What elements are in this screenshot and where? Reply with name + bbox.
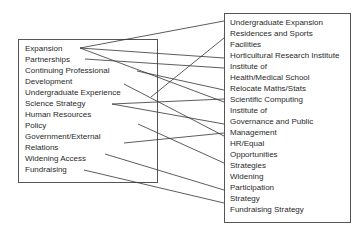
right-item: Undergraduate Expansion xyxy=(230,17,339,28)
left-item: Widening Access xyxy=(25,153,121,164)
right-item: Health/Medical School xyxy=(230,72,339,83)
right-item: Management xyxy=(230,127,339,138)
right-item: Participation xyxy=(230,182,339,193)
right-item: Opportunities xyxy=(230,149,339,160)
right-item: Facilities xyxy=(230,39,339,50)
left-item: Policy xyxy=(25,120,121,131)
left-item: Government/External xyxy=(25,131,121,142)
right-item: Institute of xyxy=(230,105,339,116)
right-item: Residences and Sports xyxy=(230,28,339,39)
right-item: Fundraising Strategy xyxy=(230,204,339,215)
right-item: Widening xyxy=(230,171,339,182)
right-item: HR/Equal xyxy=(230,138,339,149)
left-item: Expansion xyxy=(25,43,121,54)
connector-line xyxy=(105,154,224,190)
left-item: Partnerships xyxy=(25,54,121,65)
right-item: Strategies xyxy=(230,160,339,171)
left-item: Undergraduate Experience xyxy=(25,87,121,98)
left-item: Development xyxy=(25,76,121,87)
right-item: Scientific Computing xyxy=(230,94,339,105)
left-item: Fundraising xyxy=(25,164,121,175)
right-list: Undergraduate Expansion Residences and S… xyxy=(230,17,339,215)
left-item: Science Strategy xyxy=(25,98,121,109)
connector-line xyxy=(124,133,224,143)
left-item: Continuing Professional xyxy=(25,65,121,76)
left-item: Human Resources xyxy=(25,109,121,120)
right-item: Strategy xyxy=(230,193,339,204)
connector-line xyxy=(112,99,224,104)
left-item: Relations xyxy=(25,142,121,153)
connector-line xyxy=(124,84,224,136)
left-list: Expansion Partnerships Continuing Profes… xyxy=(25,43,121,175)
right-item: Governance and Public xyxy=(230,116,339,127)
right-item: Horticultural Research Institute xyxy=(230,50,339,61)
right-item: Institute of xyxy=(230,61,339,72)
connector-line xyxy=(137,71,224,90)
right-item: Relocate Maths/Stats xyxy=(230,83,339,94)
connector-line xyxy=(138,124,224,163)
